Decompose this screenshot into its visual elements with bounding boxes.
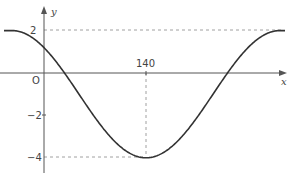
origin-label: O — [32, 75, 40, 86]
y-tick-label-neg4: −4 — [27, 152, 42, 163]
cosine-graph: y x O 2 −2 −4 140 — [0, 0, 289, 176]
x-axis-label: x — [281, 76, 287, 87]
y-axis-label: y — [50, 6, 57, 17]
x-tick-label-140: 140 — [136, 58, 155, 69]
y-tick-label-neg2: −2 — [27, 110, 42, 121]
y-tick-label-2: 2 — [30, 25, 36, 36]
cosine-curve — [4, 31, 285, 158]
y-axis-arrow-icon — [41, 6, 47, 14]
